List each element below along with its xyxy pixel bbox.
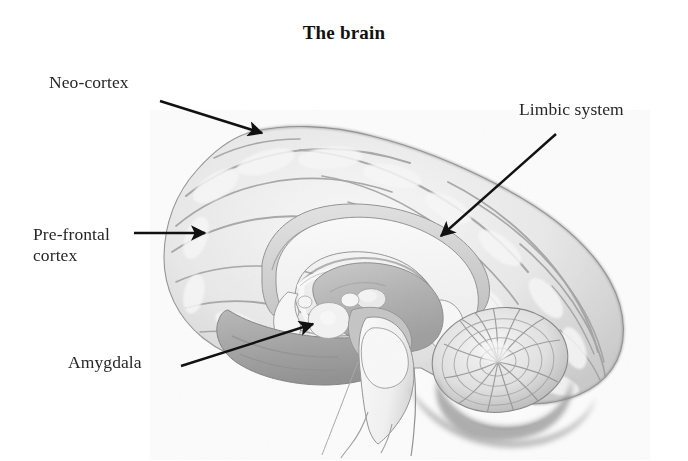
halftone-grain: [150, 110, 650, 460]
label-amygdala: Amygdala: [68, 352, 142, 373]
label-neo-cortex: Neo-cortex: [49, 72, 129, 93]
label-pre-frontal-cortex: Pre-frontal cortex: [33, 224, 110, 265]
label-limbic-system: Limbic system: [519, 99, 624, 120]
brain-diagram-figure: The brain: [0, 0, 688, 461]
